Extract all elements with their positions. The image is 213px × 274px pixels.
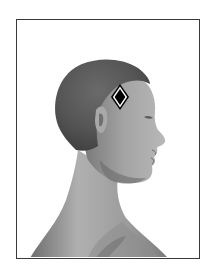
image-canvas: temple [0, 0, 213, 274]
figure-body [30, 59, 168, 258]
head-profile-figure [0, 0, 213, 274]
